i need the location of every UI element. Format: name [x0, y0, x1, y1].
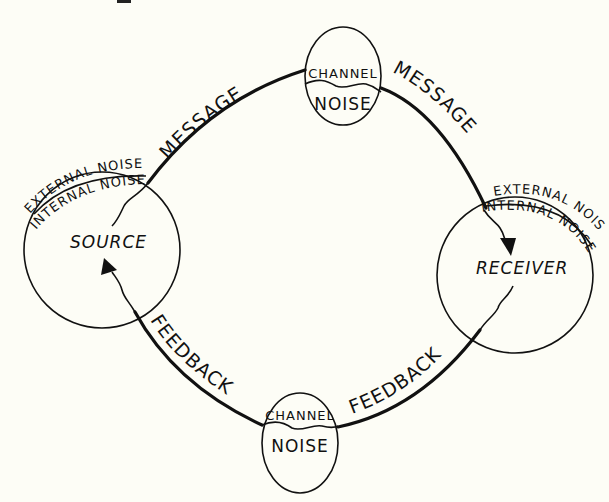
feedback-right-edge: FEEDBACK	[338, 330, 480, 427]
receiver-label: RECEIVER	[476, 258, 568, 278]
source-node: EXTERNAL NOISE INTERNAL NOISE SOURCE	[21, 156, 180, 328]
channel-top-node: CHANNEL NOISE	[305, 27, 381, 125]
message-left-edge: MESSAGE	[148, 70, 305, 183]
source-feedback-arrow-icon	[101, 258, 117, 275]
source-label: SOURCE	[70, 232, 147, 252]
feedback-left-edge: FEEDBACK	[135, 310, 262, 425]
channel-top-noise-divider	[305, 80, 381, 92]
message-right-label: MESSAGE	[390, 56, 481, 137]
receiver-message-arrow-icon	[500, 238, 516, 256]
communication-diagram: EXTERNAL NOISE INTERNAL NOISE SOURCE EXT…	[0, 0, 609, 502]
message-right-line	[381, 88, 486, 208]
channel-bottom-lower-label: NOISE	[271, 436, 329, 456]
message-left-label: MESSAGE	[155, 82, 247, 163]
channel-top-lower-label: NOISE	[314, 94, 372, 114]
channel-bottom-noise-divider	[262, 422, 338, 429]
source-feedback-wiggle	[112, 272, 135, 312]
receiver-message-wiggle	[484, 210, 506, 242]
channel-bottom-upper-label: CHANNEL	[265, 408, 335, 423]
receiver-feedback-wiggle	[480, 286, 513, 330]
diagram-svg: EXTERNAL NOISE INTERNAL NOISE SOURCE EXT…	[0, 0, 609, 502]
channel-bottom-node: CHANNEL NOISE	[262, 393, 338, 493]
channel-top-upper-label: CHANNEL	[308, 66, 378, 81]
message-right-edge: MESSAGE	[381, 56, 486, 208]
feedback-left-label: FEEDBACK	[147, 310, 238, 398]
